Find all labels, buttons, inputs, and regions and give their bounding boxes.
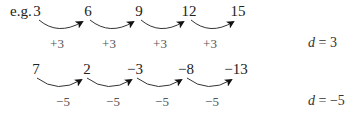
difference-label: −5 [205,95,219,108]
difference-label: −5 [155,95,169,108]
term: 9 [135,4,143,19]
arrow-icon [187,78,231,87]
term: 15 [231,4,246,19]
row2-arrows [37,78,231,87]
difference-label: +3 [102,37,116,50]
term: 7 [32,62,40,77]
arrow-icon [137,78,181,87]
arrow-icon [191,20,233,29]
difference-label: −5 [106,95,120,108]
difference-label: +3 [50,37,64,50]
arrow-icon [37,78,81,87]
term: 2 [83,62,91,77]
common-difference: d = −5 [308,94,345,108]
eg-prefix: e.g. [10,4,32,19]
term: −13 [224,62,247,77]
common-difference: d = 3 [308,36,337,50]
difference-label: +3 [153,37,167,50]
arrow-icon [87,78,131,87]
arrow-icon [90,20,133,29]
row1-arrows [39,20,233,29]
difference-label: −5 [56,95,70,108]
term: 6 [84,4,92,19]
term: −8 [178,62,194,77]
term: −3 [127,62,143,77]
arrow-icon [39,20,82,29]
term: 12 [182,4,197,19]
arrow-icon [141,20,183,29]
term: 3 [33,4,41,19]
arrows-layer [0,0,358,113]
difference-label: +3 [203,37,217,50]
